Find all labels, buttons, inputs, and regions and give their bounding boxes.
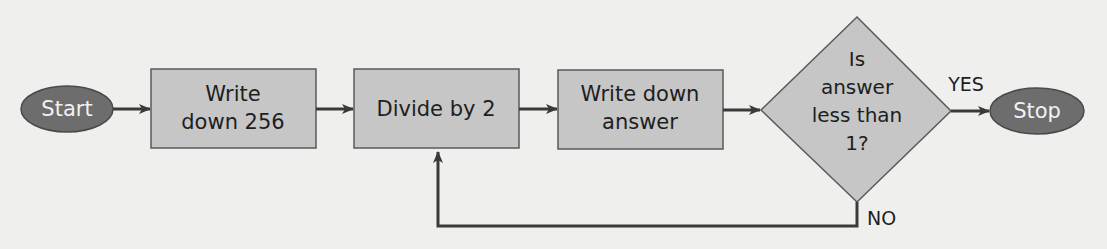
decision-line4: 1?: [845, 131, 868, 155]
start-node: Start: [21, 86, 113, 132]
stop-node: Stop: [990, 88, 1084, 134]
decision-line3: less than: [812, 103, 903, 127]
start-label: Start: [41, 97, 92, 121]
process-divide-by-2: Divide by 2: [354, 69, 519, 148]
decision-line2: answer: [821, 75, 894, 99]
writeanswer-line1: Write down: [581, 82, 700, 106]
yes-label: YES: [947, 73, 984, 95]
divide-label: Divide by 2: [377, 97, 496, 121]
stop-label: Stop: [1013, 99, 1061, 123]
flowchart: Start Write down 256 Divide by 2 Write d…: [0, 0, 1107, 249]
decision-less-than-1: Is answer less than 1?: [761, 17, 951, 202]
process-write-down-answer: Write down answer: [558, 70, 723, 149]
write256-line1: Write: [205, 82, 260, 106]
process-write-down-256: Write down 256: [151, 69, 316, 148]
write256-line2: down 256: [181, 110, 284, 134]
decision-line1: Is: [849, 47, 865, 71]
writeanswer-line2: answer: [602, 110, 678, 134]
arrow-decision-no-loop-to-divide: [438, 152, 857, 226]
no-label: NO: [867, 207, 896, 229]
